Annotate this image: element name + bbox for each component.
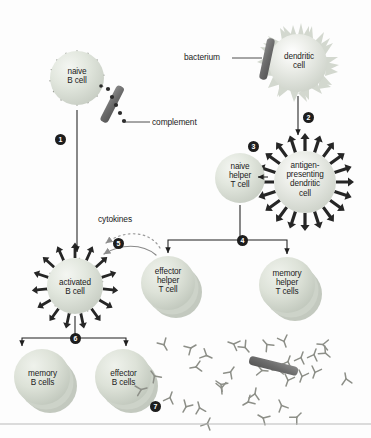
secreted-antibodies bbox=[135, 335, 352, 430]
bacterium-on-b-cell bbox=[99, 84, 150, 124]
memory-helper-t-cells-group bbox=[259, 257, 322, 321]
apc-dendritic-cell-body bbox=[274, 151, 336, 213]
immunology-diagram: naive B cell dendritic cell naive helper… bbox=[0, 0, 371, 438]
diagram-canvas bbox=[0, 0, 371, 438]
activated-b-cell-body bbox=[47, 258, 103, 314]
dendritic-cell-body bbox=[269, 34, 327, 92]
step-badge-4: 4 bbox=[237, 235, 248, 246]
effector-helper-t-cell-group bbox=[141, 256, 202, 318]
step-badge-3: 3 bbox=[248, 141, 259, 152]
step-badge-7: 7 bbox=[150, 401, 161, 412]
effector-b-cells-body bbox=[95, 349, 151, 405]
step-badge-6: 6 bbox=[70, 333, 81, 344]
apc-dendritic-cell-group bbox=[256, 133, 354, 231]
arrow-step-4a bbox=[168, 205, 240, 253]
naive-b-cell-group bbox=[50, 51, 105, 105]
arrow-step-6b bbox=[75, 338, 126, 346]
memory-helper-t-cells-body bbox=[259, 257, 315, 313]
naive-b-cell-body bbox=[50, 51, 104, 105]
naive-helper-t-cell-body bbox=[215, 153, 265, 203]
step-badge-2: 2 bbox=[303, 112, 314, 123]
step-badge-5: 5 bbox=[113, 238, 124, 249]
effector-helper-t-cell-body bbox=[141, 256, 195, 310]
step-badge-1: 1 bbox=[55, 134, 66, 145]
memory-b-cells-body bbox=[14, 349, 70, 405]
effector-b-cells-group bbox=[95, 349, 158, 413]
memory-b-cells-group bbox=[14, 349, 77, 413]
